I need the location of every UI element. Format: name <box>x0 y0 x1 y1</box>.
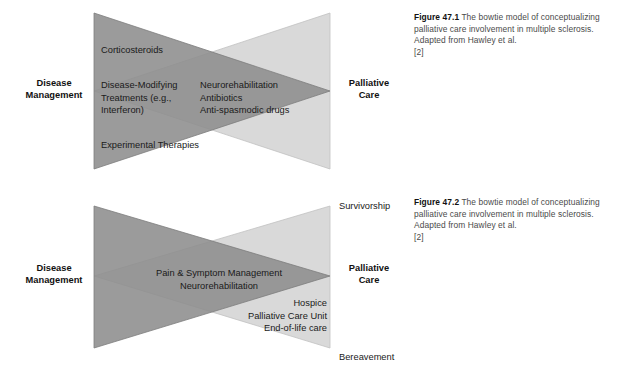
right-endpoint-label-line1: Palliative <box>336 263 402 275</box>
palliative-item-end-of-life-care: End-of-life care <box>150 322 327 335</box>
palliative-items-2: Hospice Palliative Care Unit End-of-life… <box>150 297 327 335</box>
top-endpoint-label-survivorship: Survivorship <box>339 200 390 212</box>
figure-caption-2: Figure 47.2 The bowtie model of conceptu… <box>414 197 618 243</box>
overlap-items-2: Pain & Symptom Management Neurorehabilit… <box>106 267 332 292</box>
disease-item-experimental-therapies: Experimental Therapies <box>101 139 199 152</box>
figure-47-2: Disease Management Palliative Care Survi… <box>0 185 631 370</box>
overlap-item-anti-spasmodic-drugs: Anti-spasmodic drugs <box>200 104 289 117</box>
overlap-item-pain-symptom-management: Pain & Symptom Management <box>106 267 332 280</box>
disease-item-dmt-line2: Treatments (e.g., <box>101 92 177 105</box>
figure-caption-label-1: Figure 47.1 <box>414 12 459 22</box>
overlap-item-neurorehabilitation: Neurorehabilitation <box>106 280 332 293</box>
left-endpoint-label-line1: Disease <box>18 263 90 275</box>
left-endpoint-label-line2: Management <box>18 90 90 102</box>
left-endpoint-label-2: Disease Management <box>18 263 90 286</box>
figure-caption-reference-2: [2] <box>414 232 618 244</box>
bottom-endpoint-label-bereavement: Bereavement <box>339 351 394 363</box>
overlap-item-antibiotics: Antibiotics <box>200 92 289 105</box>
disease-item-corticosteroids: Corticosteroids <box>101 44 163 57</box>
disease-item-dmt-line3: Interferon) <box>101 104 177 117</box>
disease-item-dmt-line1: Disease-Modifying <box>101 79 177 92</box>
left-endpoint-label-line1: Disease <box>18 78 90 90</box>
right-endpoint-label-line1: Palliative <box>336 78 402 90</box>
disease-item-dmt: Disease-Modifying Treatments (e.g., Inte… <box>101 79 177 117</box>
figure-caption-label-2: Figure 47.2 <box>414 197 459 207</box>
left-endpoint-label-line2: Management <box>18 275 90 287</box>
palliative-item-hospice: Hospice <box>150 297 327 310</box>
overlap-items-1: Neurorehabilitation Antibiotics Anti-spa… <box>200 79 289 117</box>
figure-caption-reference-1: [2] <box>414 47 618 59</box>
right-endpoint-label-line2: Care <box>336 275 402 287</box>
left-endpoint-label-1: Disease Management <box>18 78 90 101</box>
right-endpoint-label-1: Palliative Care <box>336 78 402 101</box>
right-endpoint-label-2: Palliative Care <box>336 263 402 286</box>
figure-caption-1: Figure 47.1 The bowtie model of conceptu… <box>414 12 618 58</box>
palliative-item-palliative-care-unit: Palliative Care Unit <box>150 310 327 323</box>
right-endpoint-label-line2: Care <box>336 90 402 102</box>
figure-47-1: Disease Management Palliative Care Corti… <box>0 0 631 185</box>
overlap-item-neurorehabilitation: Neurorehabilitation <box>200 79 289 92</box>
